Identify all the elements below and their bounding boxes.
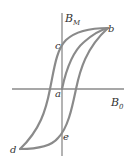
point-label-e: e: [63, 131, 69, 142]
point-label-b: b: [108, 23, 114, 34]
point-label-d: d: [10, 144, 16, 155]
y-axis-label: BM: [64, 12, 81, 27]
diagram-canvas: BM B0 a b c d e: [0, 0, 136, 163]
x-axis-label: B0: [110, 96, 124, 111]
hysteresis-diagram: BM B0 a b c d e: [0, 0, 136, 163]
point-label-c: c: [55, 40, 61, 51]
point-label-a: a: [55, 88, 61, 99]
